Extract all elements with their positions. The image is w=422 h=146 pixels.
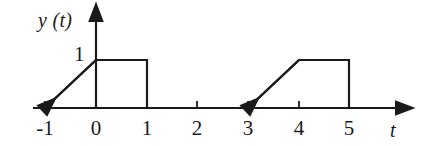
pulse-1-ramp-marker [45,60,96,108]
t-tick-label-5: 5 [344,118,355,139]
pulse-2-ramp-marker [248,60,299,108]
waveform-figure: y (t) t 1 -1 0 1 2 3 4 5 [0,0,422,146]
t-axis-label: t [390,120,396,140]
y-tick-label-1: 1 [74,44,85,65]
t-tick-label-1: 1 [142,118,153,139]
y-axis-label: y (t) [38,10,72,30]
t-tick-label-4: 4 [294,118,305,139]
t-tick-label-minus-1: -1 [36,118,54,139]
t-tick-label-3: 3 [243,118,254,139]
t-tick-label-2: 2 [192,118,203,139]
t-tick-label-0: 0 [91,118,102,139]
pulse-2-waveform [250,60,349,108]
